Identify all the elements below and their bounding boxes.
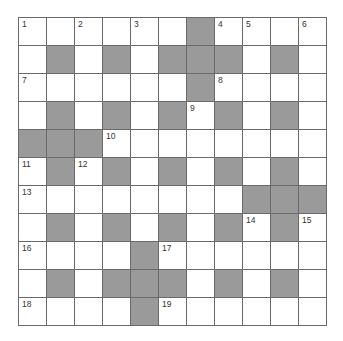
crossword-cell[interactable] — [186, 157, 214, 185]
crossword-cell[interactable] — [130, 129, 158, 157]
crossword-cell[interactable] — [102, 241, 130, 269]
crossword-cell[interactable] — [214, 129, 242, 157]
crossword-cell[interactable] — [242, 73, 270, 101]
crossword-cell[interactable] — [298, 45, 326, 73]
crossword-cell[interactable] — [186, 241, 214, 269]
crossword-cell[interactable] — [270, 241, 298, 269]
crossword-cell[interactable] — [186, 185, 214, 213]
crossword-cell[interactable] — [74, 241, 102, 269]
crossword-cell[interactable]: 1 — [18, 17, 46, 45]
crossword-cell[interactable] — [74, 213, 102, 241]
crossword-cell[interactable] — [186, 213, 214, 241]
crossword-cell[interactable] — [186, 269, 214, 297]
clue-number: 17 — [162, 244, 171, 253]
crossword-cell[interactable] — [74, 101, 102, 129]
crossword-cell[interactable] — [46, 185, 74, 213]
crossword-cell[interactable]: 12 — [74, 157, 102, 185]
crossword-cell[interactable] — [74, 185, 102, 213]
clue-number: 6 — [302, 20, 307, 29]
crossword-cell[interactable]: 4 — [214, 17, 242, 45]
crossword-cell[interactable] — [298, 129, 326, 157]
crossword-cell[interactable] — [214, 297, 242, 325]
crossword-cell[interactable] — [46, 73, 74, 101]
crossword-cell[interactable] — [298, 269, 326, 297]
crossword-cell[interactable] — [186, 129, 214, 157]
crossword-cell[interactable] — [242, 269, 270, 297]
crossword-cell[interactable]: 8 — [214, 73, 242, 101]
crossword-cell[interactable] — [214, 185, 242, 213]
clue-number: 3 — [134, 20, 139, 29]
black-square — [158, 101, 186, 129]
crossword-cell[interactable] — [102, 297, 130, 325]
crossword-cell[interactable]: 3 — [130, 17, 158, 45]
crossword-cell[interactable] — [298, 157, 326, 185]
crossword-cell[interactable] — [74, 269, 102, 297]
crossword-cell[interactable]: 11 — [18, 157, 46, 185]
crossword-cell[interactable]: 14 — [242, 213, 270, 241]
black-square — [18, 129, 46, 157]
crossword-cell[interactable] — [130, 45, 158, 73]
crossword-grid: 12345678910111213141516171819 — [18, 17, 327, 326]
crossword-cell[interactable] — [74, 297, 102, 325]
crossword-cell[interactable] — [186, 297, 214, 325]
crossword-cell[interactable] — [270, 17, 298, 45]
black-square — [270, 101, 298, 129]
black-square — [158, 45, 186, 73]
crossword-cell[interactable] — [158, 73, 186, 101]
crossword-cell[interactable]: 10 — [102, 129, 130, 157]
crossword-cell[interactable] — [298, 297, 326, 325]
black-square — [46, 45, 74, 73]
crossword-cell[interactable] — [270, 129, 298, 157]
crossword-cell[interactable] — [242, 297, 270, 325]
crossword-cell[interactable] — [18, 213, 46, 241]
crossword-cell[interactable] — [298, 241, 326, 269]
crossword-cell[interactable]: 2 — [74, 17, 102, 45]
clue-number: 4 — [218, 20, 223, 29]
crossword-cell[interactable] — [74, 73, 102, 101]
crossword-cell[interactable] — [18, 269, 46, 297]
black-square — [214, 157, 242, 185]
crossword-cell[interactable] — [242, 101, 270, 129]
crossword-cell[interactable] — [102, 73, 130, 101]
crossword-cell[interactable]: 15 — [298, 213, 326, 241]
crossword-cell[interactable] — [214, 241, 242, 269]
crossword-cell[interactable]: 18 — [18, 297, 46, 325]
crossword-cell[interactable] — [18, 101, 46, 129]
black-square — [214, 101, 242, 129]
crossword-cell[interactable] — [298, 101, 326, 129]
crossword-cell[interactable] — [46, 17, 74, 45]
crossword-cell[interactable] — [130, 185, 158, 213]
black-square — [186, 73, 214, 101]
crossword-cell[interactable] — [74, 45, 102, 73]
crossword-cell[interactable]: 19 — [158, 297, 186, 325]
crossword-cell[interactable] — [158, 17, 186, 45]
crossword-cell[interactable] — [46, 241, 74, 269]
crossword-cell[interactable]: 17 — [158, 241, 186, 269]
crossword-cell[interactable] — [270, 73, 298, 101]
crossword-cell[interactable]: 9 — [186, 101, 214, 129]
crossword-cell[interactable] — [130, 101, 158, 129]
black-square — [270, 157, 298, 185]
clue-number: 14 — [246, 216, 255, 225]
crossword-cell[interactable] — [298, 73, 326, 101]
crossword-cell[interactable] — [102, 185, 130, 213]
crossword-cell[interactable] — [18, 45, 46, 73]
crossword-cell[interactable] — [242, 45, 270, 73]
crossword-cell[interactable] — [270, 297, 298, 325]
crossword-cell[interactable] — [46, 297, 74, 325]
crossword-cell[interactable] — [130, 157, 158, 185]
crossword-cell[interactable] — [242, 129, 270, 157]
crossword-cell[interactable] — [158, 129, 186, 157]
crossword-cell[interactable]: 6 — [298, 17, 326, 45]
crossword-cell[interactable] — [242, 241, 270, 269]
crossword-cell[interactable]: 16 — [18, 241, 46, 269]
black-square — [102, 45, 130, 73]
crossword-cell[interactable] — [158, 185, 186, 213]
crossword-cell[interactable]: 5 — [242, 17, 270, 45]
crossword-cell[interactable] — [242, 157, 270, 185]
crossword-cell[interactable]: 13 — [18, 185, 46, 213]
crossword-cell[interactable] — [130, 213, 158, 241]
crossword-cell[interactable] — [102, 17, 130, 45]
crossword-cell[interactable]: 7 — [18, 73, 46, 101]
crossword-cell[interactable] — [130, 73, 158, 101]
